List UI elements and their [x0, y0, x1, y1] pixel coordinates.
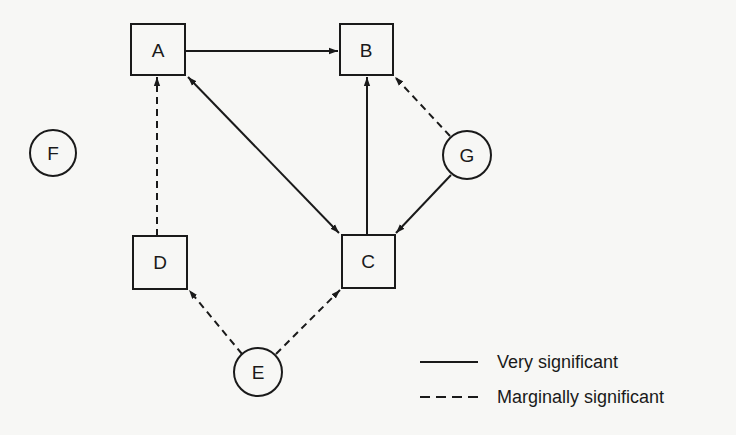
node-e-label: E [252, 362, 265, 383]
node-c-label: C [361, 251, 375, 272]
node-a-label: A [152, 40, 165, 61]
legend-dashed-label: Marginally significant [497, 387, 664, 407]
node-d-label: D [153, 252, 167, 273]
edge-a-c-bidirectional [188, 77, 339, 233]
edge-e-to-d [189, 290, 242, 354]
diagram-canvas: A B C D E F G Very significant Marginall… [0, 0, 736, 435]
edge-g-to-c [396, 175, 451, 233]
node-b-label: B [360, 40, 373, 61]
node-g-label: G [460, 145, 475, 166]
edge-g-to-b [395, 77, 450, 136]
legend-solid-label: Very significant [497, 352, 618, 372]
node-f-label: F [47, 143, 59, 164]
legend: Very significant Marginally significant [420, 352, 664, 407]
edge-e-to-c [276, 290, 340, 354]
